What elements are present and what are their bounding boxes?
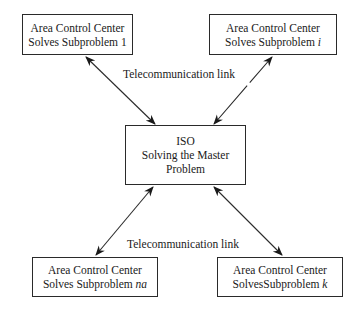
node-subtitle: Solves Subproblem i xyxy=(225,35,321,49)
edge-label-top: Telecommunication link xyxy=(123,67,235,81)
node-line2: Solving the Master xyxy=(142,148,230,162)
node-subtitle: SolvesSubproblem k xyxy=(233,277,328,291)
node-title: Area Control Center xyxy=(226,21,320,35)
node-subproblem-k: Area Control Center SolvesSubproblem k xyxy=(217,257,343,297)
node-title: ISO xyxy=(176,134,195,148)
node-subproblem-1: Area Control Center Solves Subproblem 1 xyxy=(22,14,133,55)
node-title: Area Control Center xyxy=(48,263,142,277)
node-subtitle: Solves Subproblem na xyxy=(43,277,147,291)
node-subtitle: Solves Subproblem 1 xyxy=(28,35,126,49)
node-subproblem-na: Area Control Center Solves Subproblem na xyxy=(32,257,158,297)
node-title: Area Control Center xyxy=(233,263,327,277)
node-subproblem-i: Area Control Center Solves Subproblem i xyxy=(209,14,337,55)
node-line3: Problem xyxy=(166,162,205,176)
node-iso-master: ISO Solving the Master Problem xyxy=(125,125,246,185)
edge-label-bottom: Telecommunication link xyxy=(127,237,239,251)
node-title: Area Control Center xyxy=(31,21,125,35)
